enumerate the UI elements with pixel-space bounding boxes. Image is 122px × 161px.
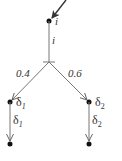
branch-right-probability: 0.6 [68, 67, 82, 79]
left-target-label: δ1 [16, 95, 26, 111]
right-edge-label: δ2 [92, 113, 102, 129]
trunk-label: i [52, 34, 55, 46]
transition-diagram: i i 0.4 0.6 δ1 δ2 δ1 δ2 [0, 0, 122, 161]
root-label: i [55, 15, 58, 27]
right-target-label: δ2 [95, 95, 105, 111]
branch-left-probability: 0.4 [16, 67, 30, 79]
right-leaf-node [87, 142, 92, 147]
left-leaf-node [8, 142, 13, 147]
left-edge-label: δ1 [13, 113, 23, 129]
